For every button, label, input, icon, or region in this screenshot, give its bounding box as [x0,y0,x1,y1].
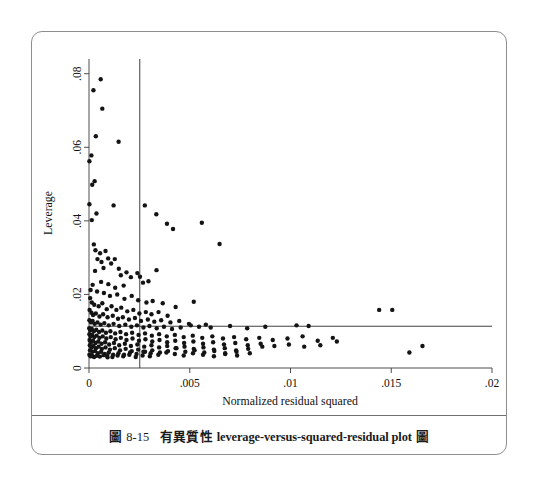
scatter-point [204,322,208,326]
scatter-point [223,352,227,356]
y-tick-label: .04 [71,213,83,228]
scatter-point [123,342,127,346]
scatter-point [182,353,186,357]
scatter-point [192,300,196,304]
scatter-point [272,344,276,348]
scatter-point [156,310,160,314]
scatter-point [125,309,129,313]
scatter-point [182,344,186,348]
scatter-point [211,340,215,344]
caption-english-text: leverage-versus-squared-residual plot [217,430,412,444]
scatter-point [233,341,237,345]
scatter-point [149,312,153,316]
scatter-point [234,350,238,354]
scatter-point [191,339,195,343]
scatter-point [90,183,94,187]
scatter-point [210,334,214,338]
scatter-point [115,292,119,296]
scatter-point [109,304,113,308]
scatter-point [111,314,115,318]
scatter-point [119,305,123,309]
scatter-point [94,134,98,138]
x-axis-title: Normalized residual squared [222,394,358,408]
scatter-point [91,88,95,92]
scatter-point [134,355,138,359]
scatter-point [93,248,97,252]
x-tick-label: .005 [180,377,200,389]
x-tick-label: .02 [485,377,500,389]
scatter-point [164,350,168,354]
scatter-point [141,280,145,284]
scatter-point [108,329,112,333]
scatter-point [285,336,289,340]
scatter-point [112,341,116,345]
scatter-point [147,324,151,328]
scatter-point [133,316,137,320]
scatter-plot-region: 0.005.01.015.02 0.02.04.06.08 Normalized… [32,32,506,416]
scatter-point [115,353,119,357]
caption-number-prefix: 圖 [109,429,122,444]
scatter-point [235,353,239,357]
scatter-point [182,335,186,339]
scatter-point [102,291,106,295]
scatter-point [212,349,216,353]
scatter-point [93,269,97,273]
y-tick-label: .06 [71,140,83,155]
scatter-point [168,320,172,324]
scatter-point [191,351,195,355]
x-tick-label: .015 [381,377,401,389]
scatter-point [105,307,109,311]
scatter-point [165,222,169,226]
scatter-point [157,332,161,336]
scatter-point [157,338,161,342]
scatter-point [143,337,147,341]
scatter-point [119,336,123,340]
scatter-point [113,346,117,350]
scatter-point [141,325,145,329]
scatter-point [263,325,267,329]
scatter-point [129,344,133,348]
scatter-point [271,338,275,342]
scatter-point [123,322,127,326]
scatter-point [106,282,110,286]
scatter-point [248,351,252,355]
scatter-point [159,318,163,322]
scatter-point [318,343,322,347]
x-axis-tick-labels-group: 0.005.01.015.02 [86,377,499,389]
scatter-point [177,319,181,323]
scatter-point [189,323,193,327]
scatter-point [136,298,140,302]
y-tick-label: 0 [71,365,83,371]
scatter-point [88,296,92,300]
y-tick-label: .02 [71,287,83,302]
scatter-point [257,336,261,340]
scatter-point [390,308,394,312]
scatter-point [173,333,177,337]
scatter-point [152,319,156,323]
scatter-point [96,304,100,308]
scatter-point [143,203,147,207]
scatter-point [150,333,154,337]
scatter-point [300,334,304,338]
scatter-point [156,353,160,357]
scatter-point [121,354,125,358]
scatter-point [223,346,227,350]
scatter-point [162,325,166,329]
scatter-point [116,140,120,144]
scatter-point [100,106,104,110]
scatter-point [200,336,204,340]
scatter-point [87,202,91,206]
scatter-point [113,257,117,261]
scatter-point [171,227,175,231]
caption-number: 8-15 [126,430,149,444]
scatter-point [173,339,177,343]
scatter-point [95,289,99,293]
scatter-point [377,308,381,312]
scatter-point [178,325,182,329]
scatter-point [103,249,107,253]
scatter-point [98,251,102,255]
scatter-point [149,343,153,347]
scatter-point [90,218,94,222]
x-tick-label: 0 [86,377,92,389]
scatter-point [105,315,109,319]
